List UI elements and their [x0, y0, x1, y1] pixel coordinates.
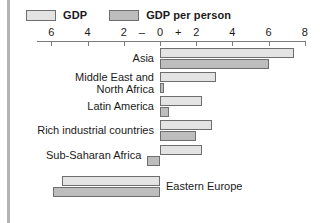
bar-gdp	[62, 176, 160, 186]
x-axis-tick-mark	[269, 41, 270, 46]
category-label: Latin America	[87, 100, 154, 112]
bar-gdp	[160, 120, 212, 130]
category-label: Eastern Europe	[166, 180, 242, 192]
x-axis-tick-mark	[160, 41, 161, 46]
plot-area: 64202468–+AsiaMiddle East and North Afri…	[0, 0, 320, 223]
chart-row: Rich industrial countries	[0, 120, 320, 144]
bar-gdppp	[53, 187, 160, 197]
x-axis-tick-mark	[51, 41, 52, 46]
chart-row: Middle East and North Africa	[0, 72, 320, 96]
x-axis-tick-label: 2	[121, 26, 127, 38]
category-label: Rich industrial countries	[37, 124, 154, 136]
bar-gdp	[160, 96, 202, 106]
chart-row: Latin America	[0, 96, 320, 120]
x-axis-tick-mark	[124, 41, 125, 46]
x-axis-line	[37, 41, 305, 42]
bar-gdp	[160, 145, 202, 155]
chart-row: Sub-Saharan Africa	[0, 145, 320, 169]
bar-gdp	[160, 48, 294, 58]
category-label: Sub-Saharan Africa	[46, 149, 141, 161]
chart-row: Eastern Europe	[0, 176, 320, 200]
bar-gdppp	[160, 83, 164, 93]
bar-gdppp	[147, 156, 160, 166]
x-axis-tick-mark	[305, 41, 306, 46]
axis-positive-sign: +	[175, 26, 181, 38]
bar-gdp	[160, 72, 216, 82]
chart-figure: GDPGDP per person 64202468–+AsiaMiddle E…	[0, 0, 320, 223]
bar-gdppp	[160, 107, 169, 117]
bar-gdppp	[160, 131, 196, 141]
category-label: Asia	[133, 52, 154, 64]
x-axis-tick-mark	[196, 41, 197, 46]
category-label: Middle East and North Africa	[75, 71, 154, 95]
x-axis-tick-label: 4	[85, 26, 91, 38]
x-axis-tick-label: 6	[48, 26, 54, 38]
axis-negative-sign: –	[139, 26, 145, 38]
x-axis-tick-label: 2	[193, 26, 199, 38]
x-axis-tick-label: 4	[229, 26, 235, 38]
bar-gdppp	[160, 59, 269, 69]
x-axis-tick-mark	[232, 41, 233, 46]
x-axis-tick-label: 6	[266, 26, 272, 38]
x-axis-tick-label: 0	[157, 26, 163, 38]
chart-row: Asia	[0, 48, 320, 72]
x-axis-tick-mark	[88, 41, 89, 46]
x-axis-tick-label: 8	[302, 26, 308, 38]
